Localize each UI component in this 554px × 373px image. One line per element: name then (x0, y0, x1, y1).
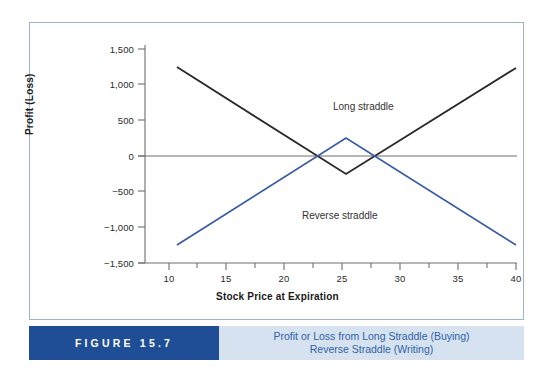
y-tick-label-minus-1000: −1,000 (90, 222, 134, 233)
y-tick-label-minus-500: −500 (90, 186, 134, 197)
y-axis-ticks (138, 49, 145, 263)
figure-caption-bar: FIGURE 15.7 Profit or Loss from Long Str… (29, 326, 524, 360)
y-tick-label-1000: 1,000 (90, 79, 134, 90)
series-line-reverse-straddle (177, 138, 516, 245)
x-tick-label-40: 40 (511, 273, 522, 284)
x-tick-label-35: 35 (453, 273, 464, 284)
x-tick-label-10: 10 (164, 273, 175, 284)
figure-number-box: FIGURE 15.7 (29, 326, 219, 360)
figure-number-label: FIGURE 15.7 (75, 337, 173, 349)
figure-caption-line-1: Profit or Loss from Long Straddle (Buyin… (273, 330, 469, 343)
x-tick-label-25: 25 (337, 273, 348, 284)
annotation-reverse-straddle: Reverse straddle (302, 210, 378, 221)
y-axis-title: Profit (Loss) (24, 74, 35, 136)
x-tick-label-20: 20 (279, 273, 290, 284)
figure-page: 1,500 1,000 500 0 −500 −1,000 −1,500 10 … (0, 0, 554, 373)
y-tick-label-1500: 1,500 (90, 44, 134, 55)
y-tick-label-0: 0 (90, 151, 134, 162)
x-tick-label-15: 15 (221, 273, 232, 284)
x-tick-label-30: 30 (395, 273, 406, 284)
x-axis-major-ticks (169, 263, 516, 270)
figure-caption-line-2: Reverse Straddle (Writing) (310, 343, 434, 356)
x-axis-title: Stock Price at Expiration (30, 291, 525, 302)
chart-svg (30, 23, 525, 321)
annotation-long-straddle: Long straddle (333, 101, 394, 112)
chart-plot-area: 1,500 1,000 500 0 −500 −1,000 −1,500 10 … (30, 23, 525, 321)
figure-caption-text-box: Profit or Loss from Long Straddle (Buyin… (219, 326, 524, 360)
y-tick-label-minus-1500: −1,500 (90, 258, 134, 269)
figure-frame: 1,500 1,000 500 0 −500 −1,000 −1,500 10 … (29, 22, 524, 320)
series-line-long-straddle (177, 67, 516, 174)
y-tick-label-500: 500 (90, 115, 134, 126)
